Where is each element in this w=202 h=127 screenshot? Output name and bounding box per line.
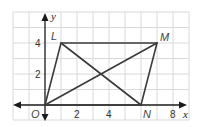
point-label-l: L: [51, 30, 57, 42]
y-axis-label: y: [50, 10, 56, 22]
grid: [13, 12, 189, 120]
point-label-o: O: [31, 108, 40, 120]
x-axis-label: x: [182, 108, 188, 120]
x-axis-left-arrow-icon: [13, 102, 21, 109]
y-tick-2: 2: [35, 69, 41, 80]
point-label-m: M: [160, 31, 170, 43]
x-tick-4: 4: [106, 109, 112, 120]
coordinate-plane: y x 2 4 8 4 2 O L M N: [0, 0, 202, 127]
y-tick-4: 4: [35, 38, 41, 49]
x-tick-2: 2: [74, 109, 80, 120]
point-label-n: N: [143, 108, 151, 120]
y-axis-up-arrow-icon: [42, 13, 49, 21]
x-tick-8: 8: [170, 109, 176, 120]
